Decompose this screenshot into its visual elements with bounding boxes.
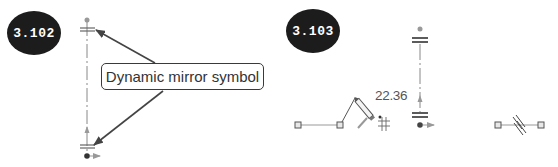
- figure-badge-3-103: 3.103: [286, 9, 340, 53]
- axis-arrow-icon: [85, 126, 90, 133]
- pencil-shadow: [358, 118, 367, 128]
- drawing-canvas: [0, 0, 558, 167]
- callout-leader-top: [96, 30, 155, 63]
- endpoint-square-icon: [495, 122, 501, 128]
- axis-origin-icon: [84, 153, 90, 159]
- axis-top-point-icon: [418, 27, 423, 32]
- callout-box: Dynamic mirror symbol: [101, 63, 264, 90]
- endpoint-square-icon: [538, 122, 544, 128]
- mirror-symbol-icon: [412, 113, 428, 117]
- grid-snap-icon: [378, 116, 390, 132]
- axis-top-point-icon: [85, 18, 90, 23]
- endpoint-square-icon: [337, 122, 343, 128]
- pencil-cursor-icon: [353, 95, 375, 120]
- mirrored-line: [495, 115, 544, 135]
- figure-badge-3-102: 3.102: [7, 11, 61, 55]
- endpoint-square-icon: [295, 122, 301, 128]
- callout-text: Dynamic mirror symbol: [106, 68, 259, 85]
- axis-arrow-icon: [418, 95, 423, 102]
- callout-leader-bottom: [94, 91, 163, 145]
- dimension-value: 22.36: [375, 88, 407, 103]
- mirror-symbol-icon: [513, 115, 526, 135]
- axis-origin-icon: [417, 122, 423, 128]
- mirror-symbol-icon: [80, 145, 95, 148]
- mirror-symbol-icon: [412, 38, 428, 42]
- preview-line: [342, 98, 355, 122]
- sketch-line-left: [295, 122, 343, 128]
- mirror-axis-left: [80, 18, 100, 159]
- mirror-axis-right: [412, 27, 434, 128]
